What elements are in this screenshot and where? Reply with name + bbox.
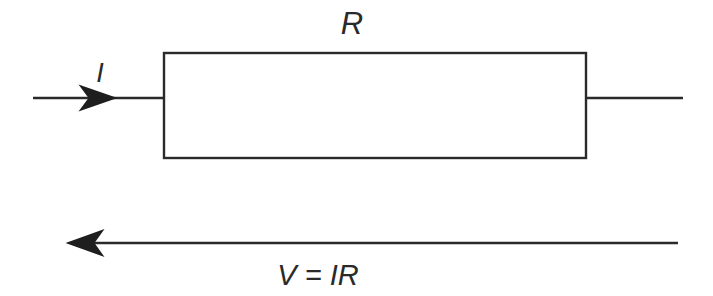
circuit-diagram: R I V = IR <box>0 0 713 296</box>
resistor-box <box>164 53 586 158</box>
resistance-label: R <box>341 6 363 41</box>
voltage-equation-label: V = IR <box>277 259 358 291</box>
current-label: I <box>96 58 104 88</box>
diagram-canvas: R I V = IR <box>0 0 713 296</box>
